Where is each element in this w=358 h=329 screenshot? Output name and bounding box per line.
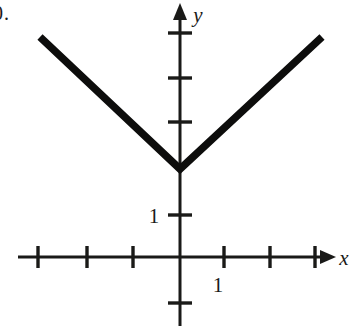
y-axis-label: y: [191, 3, 203, 27]
y-axis-arrowhead: [173, 3, 187, 20]
x-axis-label: x: [338, 246, 349, 270]
coordinate-plane-svg: x y 1 1: [0, 0, 358, 329]
x-axis-tick-label-one: 1: [213, 273, 224, 297]
exercise-number-label: 0.: [0, 2, 10, 25]
y-axis-tick-label-one: 1: [149, 204, 160, 228]
x-axis-arrowhead: [320, 250, 336, 264]
x-axis-group: [18, 246, 336, 268]
graph-figure: 0. x: [0, 0, 358, 329]
